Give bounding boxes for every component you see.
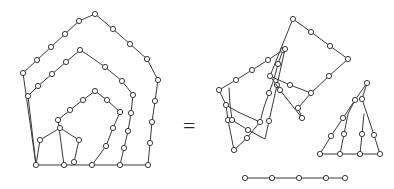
piece-lower-right-fan-path-2 bbox=[362, 83, 380, 154]
vertex-node bbox=[266, 118, 271, 123]
vertex-node bbox=[287, 82, 292, 87]
dissection-diagram-canvas: = bbox=[0, 0, 394, 189]
vertex-node bbox=[242, 175, 247, 180]
vertex-node bbox=[308, 90, 313, 95]
vertex-node bbox=[152, 98, 157, 103]
vertex-node bbox=[117, 109, 122, 114]
vertex-node bbox=[20, 70, 25, 75]
equals-sign: = bbox=[183, 113, 195, 138]
vertex-node bbox=[25, 93, 30, 98]
vertex-node bbox=[128, 110, 133, 115]
vertex-node bbox=[92, 11, 97, 16]
vertex-node bbox=[364, 80, 369, 85]
vertex-node bbox=[277, 87, 282, 92]
vertex-node bbox=[145, 162, 150, 167]
vertex-node bbox=[62, 31, 67, 36]
vertex-node bbox=[121, 145, 126, 150]
vertex-node bbox=[371, 132, 376, 137]
vertex-node bbox=[295, 105, 300, 110]
figure-container: = bbox=[0, 0, 394, 189]
vertex-node bbox=[76, 137, 81, 142]
piece-bottom-segment bbox=[242, 175, 347, 180]
vertex-node bbox=[110, 125, 115, 130]
vertex-node bbox=[323, 175, 328, 180]
vertex-node bbox=[340, 115, 345, 120]
piece-large-quad bbox=[267, 16, 350, 120]
vertex-node bbox=[104, 97, 109, 102]
right-side-group bbox=[216, 16, 382, 180]
vertex-node bbox=[119, 78, 124, 83]
vertex-node bbox=[144, 56, 149, 61]
vertex-node bbox=[110, 26, 115, 31]
vertex-node bbox=[61, 162, 66, 167]
vertex-node bbox=[266, 90, 271, 95]
vertex-node bbox=[328, 133, 333, 138]
vertex-node bbox=[149, 119, 154, 124]
vertex-node bbox=[352, 97, 357, 102]
vertex-node bbox=[223, 102, 228, 107]
vertex-node bbox=[35, 83, 40, 88]
vertex-node bbox=[48, 44, 53, 49]
vertex-node bbox=[299, 115, 304, 120]
vertex-node bbox=[244, 135, 249, 140]
vertex-node bbox=[103, 143, 108, 148]
vertex-node bbox=[233, 77, 238, 82]
vertex-node bbox=[55, 117, 60, 122]
vertex-node bbox=[67, 107, 72, 112]
vertex-node bbox=[275, 61, 280, 66]
left-side-group bbox=[20, 11, 160, 167]
vertex-node bbox=[125, 128, 130, 133]
vertex-node bbox=[229, 117, 234, 122]
vertex-node bbox=[80, 97, 85, 102]
vertex-node bbox=[34, 57, 39, 62]
vertex-node bbox=[92, 88, 97, 93]
vertex-node bbox=[282, 46, 287, 51]
vertex-node bbox=[155, 77, 160, 82]
vertex-node bbox=[71, 159, 76, 164]
vertex-node bbox=[49, 71, 54, 76]
vertex-node bbox=[63, 59, 68, 64]
vertex-node bbox=[308, 29, 313, 34]
vertex-node bbox=[357, 151, 362, 156]
piece-lower-right-fan-path-3 bbox=[340, 100, 355, 154]
vertex-node bbox=[102, 64, 107, 69]
vertex-node bbox=[33, 162, 38, 167]
vertex-node bbox=[327, 43, 332, 48]
vertex-node bbox=[341, 131, 346, 136]
vertex-node bbox=[249, 67, 254, 72]
vertex-node bbox=[147, 140, 152, 145]
vertex-node bbox=[37, 137, 42, 142]
vertex-node bbox=[257, 119, 262, 124]
vertex-node bbox=[265, 57, 270, 62]
vertex-node bbox=[345, 56, 350, 61]
vertex-node bbox=[57, 125, 62, 130]
vertex-node bbox=[326, 73, 331, 78]
vertex-node bbox=[359, 131, 364, 136]
vertex-node bbox=[296, 175, 301, 180]
vertex-node bbox=[117, 162, 122, 167]
vertex-node bbox=[377, 151, 382, 156]
vertex-node bbox=[127, 41, 132, 46]
vertex-node bbox=[359, 96, 364, 101]
path-second-ring bbox=[28, 50, 133, 165]
vertex-node bbox=[89, 162, 94, 167]
vertex-node bbox=[342, 175, 347, 180]
vertex-node bbox=[76, 18, 81, 23]
vertex-node bbox=[130, 92, 135, 97]
vertex-node bbox=[290, 16, 295, 21]
piece-upper-left-strip-path-1 bbox=[226, 105, 234, 150]
vertex-node bbox=[317, 151, 322, 156]
vertex-node bbox=[216, 87, 221, 92]
vertex-node bbox=[231, 147, 236, 152]
piece-lower-right-fan bbox=[317, 80, 382, 156]
vertex-node bbox=[245, 127, 250, 132]
vertex-node bbox=[77, 47, 82, 52]
vertex-node bbox=[337, 151, 342, 156]
vertex-node bbox=[267, 73, 272, 78]
piece-large-quad-path-2 bbox=[298, 93, 311, 118]
piece-upper-left-strip-path-0 bbox=[219, 50, 283, 122]
vertex-node bbox=[269, 175, 274, 180]
path-outer-ring bbox=[23, 14, 158, 165]
